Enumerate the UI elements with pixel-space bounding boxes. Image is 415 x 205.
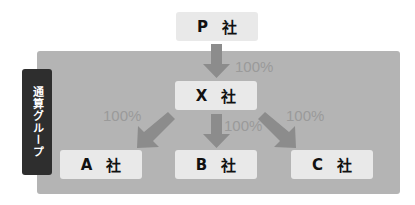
ownership-x-to-b: 100% bbox=[224, 117, 262, 134]
company-letter: C bbox=[312, 156, 323, 174]
company-box-p: P 社 bbox=[176, 12, 258, 41]
company-letter: B bbox=[196, 156, 207, 174]
company-suffix: 社 bbox=[221, 85, 236, 106]
company-box-c: C 社 bbox=[291, 150, 373, 179]
arrow-p-to-x bbox=[203, 44, 230, 78]
company-box-a: A 社 bbox=[60, 150, 142, 179]
arrow-x-to-a bbox=[137, 112, 175, 148]
ownership-p-to-x: 100% bbox=[235, 58, 273, 75]
company-letter: X bbox=[196, 87, 208, 105]
company-letter: A bbox=[81, 156, 93, 174]
company-suffix: 社 bbox=[337, 154, 352, 175]
company-box-b: B 社 bbox=[175, 150, 257, 179]
company-box-x: X 社 bbox=[175, 81, 257, 110]
company-letter: P bbox=[197, 18, 208, 36]
company-suffix: 社 bbox=[222, 16, 237, 37]
ownership-x-to-c: 100% bbox=[286, 107, 324, 124]
ownership-x-to-a: 100% bbox=[103, 107, 141, 124]
company-suffix: 社 bbox=[221, 154, 236, 175]
company-suffix: 社 bbox=[106, 154, 121, 175]
